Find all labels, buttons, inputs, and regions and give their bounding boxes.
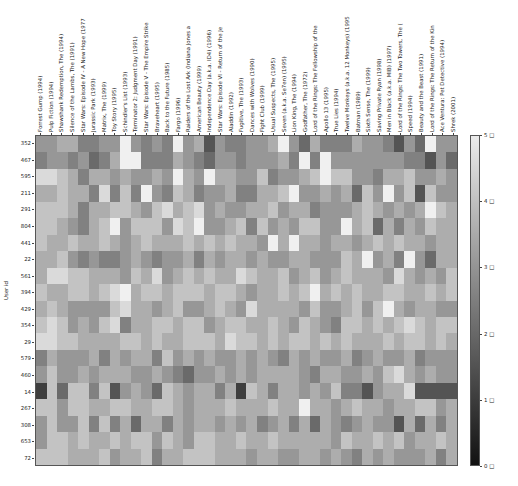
heatmap-cell xyxy=(425,235,436,251)
heatmap-cell xyxy=(383,284,394,300)
heatmap-cell xyxy=(141,399,152,415)
heatmap-cell xyxy=(310,284,321,300)
heatmap-cell xyxy=(289,218,300,234)
heatmap-cell xyxy=(47,449,58,465)
heatmap-cell xyxy=(446,317,457,333)
heatmap-cell xyxy=(225,399,236,415)
heatmap-cell xyxy=(373,432,384,448)
colorbar-tick-label: 1 □ xyxy=(484,397,494,403)
heatmap-cell xyxy=(236,235,247,251)
colorbar-tick-label: 5 □ xyxy=(484,132,494,138)
heatmap-cell xyxy=(110,268,121,284)
heatmap-cell xyxy=(131,218,142,234)
heatmap-cell xyxy=(278,185,289,201)
heatmap-cell xyxy=(47,317,58,333)
heatmap-cell xyxy=(162,152,173,168)
heatmap-cell xyxy=(68,185,79,201)
heatmap-cell xyxy=(68,284,79,300)
heatmap-cell xyxy=(225,251,236,267)
x-tick-label: Independence Day (a.k.a. ID4) (1996) xyxy=(206,30,212,132)
heatmap-cell xyxy=(141,268,152,284)
heatmap-cell xyxy=(320,169,331,185)
heatmap-cell xyxy=(78,350,89,366)
heatmap-cell xyxy=(173,251,184,267)
heatmap-cell xyxy=(131,301,142,317)
heatmap-cell xyxy=(425,317,436,333)
heatmap-cell xyxy=(225,136,236,152)
x-tick-label: Silence of the Lambs, The (1991) xyxy=(69,43,75,133)
heatmap-cell xyxy=(194,350,205,366)
heatmap-cell xyxy=(204,152,215,168)
heatmap-cell xyxy=(194,366,205,382)
heatmap-cell xyxy=(299,235,310,251)
heatmap-cell xyxy=(173,317,184,333)
heatmap-cell xyxy=(394,449,405,465)
heatmap-cell xyxy=(246,366,257,382)
x-tick-label: Fight Club (1999) xyxy=(259,85,265,132)
heatmap-cell xyxy=(373,399,384,415)
heatmap-cell xyxy=(68,432,79,448)
heatmap-cell xyxy=(57,449,68,465)
heatmap-cell xyxy=(152,301,163,317)
y-tick-label: 429 xyxy=(21,306,31,312)
x-tick-label: Braveheart (1995) xyxy=(154,82,160,132)
heatmap-cell xyxy=(352,449,363,465)
x-tick-label: True Lies (1994) xyxy=(333,89,339,132)
heatmap-cell xyxy=(162,268,173,284)
heatmap-cell xyxy=(446,202,457,218)
heatmap-cell xyxy=(446,218,457,234)
heatmap-cell xyxy=(257,301,268,317)
heatmap-cell xyxy=(89,399,100,415)
x-tick-label: Batman (1989) xyxy=(355,91,361,132)
heatmap-cell xyxy=(257,152,268,168)
heatmap-cell xyxy=(404,399,415,415)
heatmap-cell xyxy=(225,152,236,168)
heatmap-cell xyxy=(446,366,457,382)
heatmap-cell xyxy=(436,449,447,465)
heatmap-cell xyxy=(257,136,268,152)
heatmap-cell xyxy=(225,432,236,448)
heatmap-cell xyxy=(152,416,163,432)
heatmap-cell xyxy=(257,202,268,218)
heatmap-cell xyxy=(68,218,79,234)
heatmap-cell xyxy=(446,136,457,152)
heatmap-cell xyxy=(162,366,173,382)
heatmap-cell xyxy=(299,218,310,234)
heatmap-cell xyxy=(57,136,68,152)
heatmap-cell xyxy=(331,366,342,382)
heatmap-cell xyxy=(141,202,152,218)
heatmap-cell xyxy=(194,268,205,284)
heatmap-cell xyxy=(394,317,405,333)
y-tick-label: 394 xyxy=(21,289,31,295)
y-tick-label: 354 xyxy=(21,322,31,328)
heatmap-cell xyxy=(36,449,47,465)
heatmap-cell xyxy=(215,399,226,415)
heatmap-cell xyxy=(415,416,426,432)
heatmap-cell xyxy=(268,136,279,152)
x-tick-label: Terminator 2: Judgment Day (1991) xyxy=(132,36,138,132)
heatmap-cell xyxy=(99,333,110,349)
heatmap-cell xyxy=(299,136,310,152)
heatmap-cell xyxy=(215,366,226,382)
heatmap-cell xyxy=(141,317,152,333)
heatmap-cell xyxy=(268,416,279,432)
heatmap-cell xyxy=(341,432,352,448)
heatmap-cell xyxy=(310,218,321,234)
heatmap-cell xyxy=(268,268,279,284)
heatmap-cell xyxy=(99,399,110,415)
heatmap-cell xyxy=(289,301,300,317)
heatmap-cell xyxy=(215,284,226,300)
heatmap-cell xyxy=(110,136,121,152)
heatmap-cell xyxy=(225,317,236,333)
heatmap-cell xyxy=(89,449,100,465)
heatmap-cell xyxy=(78,152,89,168)
heatmap-cell xyxy=(268,218,279,234)
heatmap-cell xyxy=(162,416,173,432)
heatmap-cell xyxy=(47,169,58,185)
heatmap-cell xyxy=(394,202,405,218)
heatmap-cell xyxy=(110,185,121,201)
heatmap-cell xyxy=(215,301,226,317)
heatmap-cell xyxy=(415,399,426,415)
heatmap-cell xyxy=(141,366,152,382)
heatmap-cell xyxy=(404,383,415,399)
